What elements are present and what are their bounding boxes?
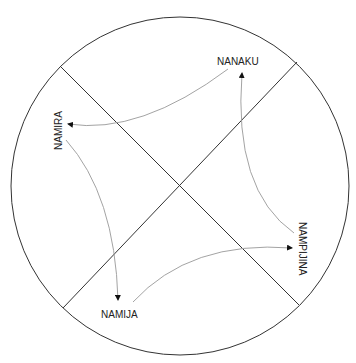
arrow-namira-to-namija xyxy=(66,140,118,300)
label-namira: NAMIRA xyxy=(53,111,64,150)
label-nanaku: NANAKU xyxy=(217,56,259,67)
arrow-nampijina-to-nanaku xyxy=(241,73,294,233)
label-nampijina: NAMPIJINA xyxy=(297,222,308,276)
arrow-nanaku-to-namira xyxy=(68,69,228,126)
kinship-cycle-diagram: NANAKU NAMIRA NAMIJA NAMPIJINA xyxy=(0,0,356,363)
label-namija: NAMIJA xyxy=(101,309,138,320)
divider-line-ne-sw xyxy=(63,62,297,308)
